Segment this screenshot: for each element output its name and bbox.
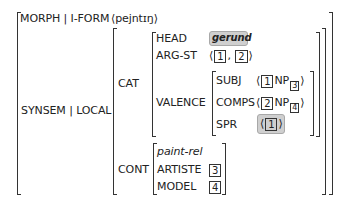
- artiste-label: ARTISTE: [157, 163, 201, 176]
- subj-label: SUBJ: [216, 74, 241, 87]
- separator: ,: [227, 49, 230, 62]
- arg-st-label: ARG-ST: [156, 49, 197, 62]
- model-value: 4: [208, 180, 222, 194]
- comps-value: ⟨2NP4⟩: [256, 96, 304, 113]
- tag-box: 2: [261, 97, 273, 110]
- head-value: gerund: [212, 31, 252, 44]
- cont-label: CONT: [118, 163, 149, 176]
- synsem-right-bracket: [322, 28, 326, 195]
- artiste-value: 3: [208, 163, 222, 177]
- open-angle: ⟨: [256, 74, 260, 87]
- comps-label: COMPS: [216, 96, 255, 109]
- cont-right-bracket: [222, 143, 226, 195]
- tag-box: 4: [209, 181, 221, 194]
- cat-label: CAT: [118, 77, 139, 90]
- valence-label: VALENCE: [156, 96, 206, 109]
- close-angle: ⟩: [278, 117, 282, 130]
- open-angle: ⟨: [209, 49, 213, 62]
- open-angle: ⟨: [256, 96, 260, 109]
- tag-box: 2: [235, 50, 247, 63]
- model-label: MODEL: [157, 180, 196, 193]
- spr-label: SPR: [216, 118, 237, 131]
- index-tag-box: 3: [290, 81, 299, 91]
- close-angle: ⟩: [300, 74, 304, 87]
- category: NP: [274, 74, 289, 87]
- subj-value: ⟨1NP3⟩: [256, 74, 304, 91]
- head-label: HEAD: [156, 32, 187, 45]
- tag-box: 1: [261, 75, 273, 88]
- spr-value: ⟨1⟩: [260, 117, 283, 131]
- cat-left-bracket: [152, 32, 156, 137]
- category: NP: [274, 96, 289, 109]
- close-angle: ⟩: [300, 96, 304, 109]
- morph-iform-path: MORPH | I-FORM: [20, 12, 109, 25]
- morph-iform-value: ⟨pejntɪŋ⟩: [111, 12, 158, 25]
- open-angle: ⟨: [260, 117, 264, 130]
- close-angle: ⟩: [249, 49, 253, 62]
- valence-right-bracket: [310, 71, 314, 136]
- tag-box: 3: [209, 164, 221, 177]
- tag-box: 1: [265, 118, 277, 131]
- arg-st-value: ⟨1, 2⟩: [209, 49, 253, 63]
- tag-box: 1: [214, 50, 226, 63]
- outer-right-bracket: [329, 12, 333, 195]
- index-tag-box: 4: [290, 103, 299, 113]
- synsem-local-path: SYNSEM | LOCAL: [21, 104, 111, 117]
- cont-type: paint-rel: [157, 145, 202, 158]
- synsem-left-bracket: [113, 28, 117, 195]
- cat-right-bracket: [316, 32, 320, 137]
